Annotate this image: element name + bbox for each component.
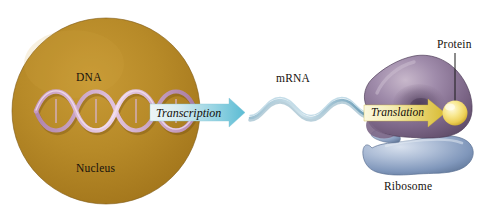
illustration-canvas: [0, 0, 489, 209]
central-dogma-figure: DNA Nucleus mRNA Protein Ribosome Transc…: [0, 0, 489, 209]
mrna-label: mRNA: [276, 73, 310, 85]
ribosome-large-subunit: [364, 55, 472, 138]
nucleus-sheen: [24, 30, 124, 98]
ribosome-label: Ribosome: [384, 181, 432, 193]
protein-sphere: [443, 101, 468, 126]
dna-label: DNA: [76, 72, 102, 84]
mrna-strand: [250, 98, 364, 121]
protein-label: Protein: [437, 39, 472, 51]
nucleus-label: Nucleus: [76, 163, 115, 175]
translation-label: Translation: [371, 107, 424, 119]
transcription-label: Transcription: [156, 107, 221, 119]
